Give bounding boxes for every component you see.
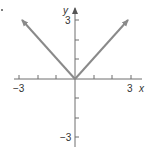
- x-axis-label: x: [138, 83, 145, 94]
- y-tick-label-3: 3: [65, 15, 71, 26]
- graph-absolute-value: y 3 −3 −3 3 x: [0, 0, 148, 147]
- curve-right-branch: [75, 20, 128, 79]
- x-tick-label-neg3: −3: [13, 83, 25, 94]
- curve-left-branch: [22, 20, 75, 79]
- x-tick-label-3: 3: [127, 83, 133, 94]
- y-tick-label-neg3: −3: [60, 132, 72, 143]
- bullet-dot: [1, 9, 3, 11]
